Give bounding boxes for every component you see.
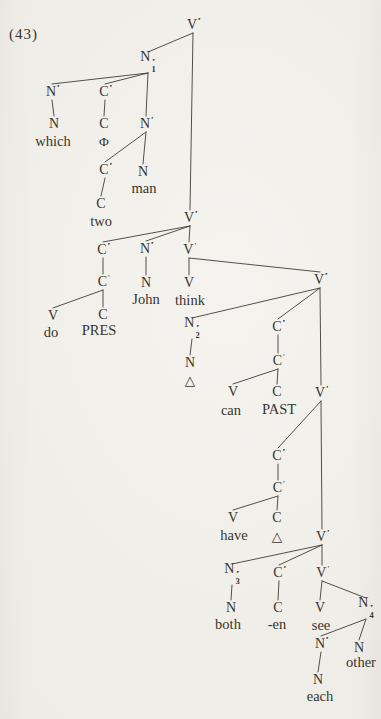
tree-node-d2v: V bbox=[228, 385, 238, 399]
tree-node-g1: N′′′4 bbox=[358, 596, 373, 619]
tree-node-f3v: V bbox=[315, 601, 325, 615]
tree-branch-e1p-e1v bbox=[233, 496, 278, 510]
tree-branch-a2-a2c bbox=[104, 100, 105, 116]
tree-branch-v3-d2 bbox=[278, 288, 320, 319]
tree-branch-v2-c2 bbox=[146, 226, 190, 241]
tree-node-e1p: C′ bbox=[273, 481, 284, 495]
tree-node-a2c: C bbox=[99, 117, 108, 131]
tree-node-b1c: C bbox=[96, 197, 105, 211]
tree-terminal-delta2: △ bbox=[272, 530, 282, 544]
tree-node-d2p: C′ bbox=[273, 354, 284, 368]
tree-branch-c3-v3 bbox=[189, 258, 320, 272]
tree-terminal-pres: PRES bbox=[82, 323, 117, 338]
tree-terminal-john: John bbox=[132, 292, 159, 307]
tree-node-d2: C′′′ bbox=[272, 320, 283, 334]
tree-node-v5: V′′ bbox=[316, 530, 328, 544]
tree-node-v2: V′′′ bbox=[184, 211, 196, 225]
tree-branch-d2p-d2v bbox=[233, 369, 278, 384]
tree-node-f2c: C bbox=[273, 601, 282, 615]
tree-branch-g2-g2n bbox=[318, 652, 321, 672]
tree-node-c2: N′′′ bbox=[140, 242, 152, 256]
tree-node-d1: N′′′2 bbox=[184, 316, 199, 339]
tree-terminal-can: can bbox=[221, 403, 241, 418]
tree-branch-a3-b1 bbox=[105, 132, 146, 162]
tree-terminal-past: PAST bbox=[262, 402, 296, 417]
tree-node-g2: N′′′ bbox=[315, 637, 327, 651]
tree-node-f1: N′′′3 bbox=[224, 562, 239, 585]
tree-node-d1n: N bbox=[185, 356, 195, 370]
tree-node-e1v: V bbox=[228, 511, 238, 525]
tree-node-f3: V′ bbox=[316, 566, 327, 580]
tree-branch-f2-f2c bbox=[278, 581, 279, 600]
tree-node-b1: C′′′ bbox=[99, 163, 110, 177]
tree-node-c1: C′′′ bbox=[97, 243, 108, 257]
tree-branch-n1-a3 bbox=[146, 73, 148, 116]
tree-terminal-phi: Φ bbox=[99, 135, 109, 149]
tree-terminal-each: each bbox=[307, 689, 334, 704]
tree-branch-v3-d1 bbox=[192, 288, 320, 318]
tree-branch-v4-v5 bbox=[321, 401, 322, 529]
tree-branch-r-v2 bbox=[190, 33, 193, 210]
tree-terminal-two: two bbox=[90, 214, 112, 229]
tree-node-c1p: C′ bbox=[98, 275, 109, 289]
tree-terminal-do: do bbox=[44, 325, 59, 340]
tree-node-v4: V′′ bbox=[315, 386, 327, 400]
tree-node-c1c: C bbox=[98, 308, 107, 322]
tree-branch-r-n1 bbox=[148, 33, 193, 52]
tree-node-n1: N′′′1 bbox=[140, 50, 155, 73]
tree-terminal-other: other bbox=[346, 655, 376, 670]
tree-node-e1: C′′′ bbox=[272, 449, 283, 463]
tree-branch-a3-a3n bbox=[143, 132, 146, 164]
tree-branch-v2-c1 bbox=[103, 226, 190, 242]
tree-node-a1n: N bbox=[49, 117, 59, 131]
tree-node-c3: V′ bbox=[183, 243, 194, 257]
tree-node-a3n: N bbox=[138, 165, 148, 179]
tree-node-a3: N′′ bbox=[140, 117, 152, 131]
tree-branch-a1-a1n bbox=[52, 100, 54, 116]
tree-branch-c1p-c1v bbox=[53, 290, 103, 308]
tree-branch-n1-a1 bbox=[52, 73, 148, 84]
tree-terminal-have: have bbox=[220, 528, 247, 543]
tree-branch-n1-a2 bbox=[105, 73, 148, 84]
tree-node-c2n: N bbox=[141, 276, 151, 290]
tree-node-e1c: C bbox=[272, 511, 281, 525]
tree-branch-g1-g3 bbox=[359, 619, 366, 640]
tree-branch-v5-f2 bbox=[279, 545, 322, 565]
tree-branch-d2p-d2c bbox=[277, 369, 278, 384]
tree-node-c3v: V bbox=[184, 276, 194, 290]
tree-node-g2n: N bbox=[313, 673, 323, 687]
tree-node-v3: V′′′ bbox=[314, 273, 326, 287]
tree-node-f1n: N bbox=[226, 601, 236, 615]
tree-node-d2c: C bbox=[272, 385, 281, 399]
tree-node-r: V′′′ bbox=[187, 18, 199, 32]
tree-branch-f3-f3v bbox=[320, 581, 322, 600]
tree-branch-d1-d1n bbox=[190, 339, 192, 355]
tree-branch-b1-b1c bbox=[101, 178, 105, 196]
scanned-page: (43) V′′′N′′′1N′′′C′′′N′′NCC′′′NCV′′′C′′… bbox=[0, 0, 381, 719]
tree-node-a2: C′′′ bbox=[99, 85, 110, 99]
tree-node-f2: C′′′ bbox=[273, 566, 284, 580]
tree-terminal-en: -en bbox=[268, 617, 287, 632]
tree-terminal-both: both bbox=[215, 617, 241, 632]
tree-branch-e1p-e1c bbox=[277, 496, 278, 510]
figure-number-label: (43) bbox=[9, 26, 38, 43]
tree-node-c1v: V bbox=[48, 309, 58, 323]
tree-branch-f1-f1n bbox=[231, 585, 232, 600]
tree-terminal-delta1: △ bbox=[185, 374, 195, 388]
tree-terminal-which: which bbox=[35, 134, 70, 149]
tree-terminal-think: think bbox=[175, 293, 205, 308]
tree-terminal-man: man bbox=[132, 181, 157, 196]
tree-branch-v2-c3 bbox=[189, 226, 190, 242]
tree-branch-v3-v4 bbox=[320, 288, 321, 385]
tree-terminal-see: see bbox=[312, 618, 331, 633]
tree-node-a1: N′′′ bbox=[46, 85, 58, 99]
tree-branch-v5-f1 bbox=[232, 545, 322, 564]
